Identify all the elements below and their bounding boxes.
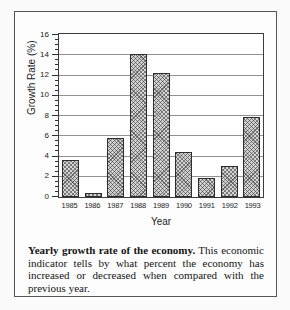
bar-slot-1992 xyxy=(218,34,241,197)
y-minor-tick xyxy=(55,125,58,126)
y-tick-label-16: 16 xyxy=(15,30,49,39)
x-tick-label-1988: 1988 xyxy=(127,201,150,211)
bar-1986 xyxy=(85,193,102,197)
y-minor-tick xyxy=(55,80,58,81)
y-major-tick-14 xyxy=(52,54,58,55)
bar-1987 xyxy=(107,138,124,197)
y-minor-tick xyxy=(55,166,58,167)
bar-slot-1991 xyxy=(195,34,218,197)
y-minor-tick xyxy=(55,39,58,40)
y-minor-tick xyxy=(55,44,58,45)
y-minor-tick xyxy=(55,110,58,111)
y-minor-tick xyxy=(55,140,58,141)
bar-1991 xyxy=(198,178,215,197)
y-minor-tick xyxy=(55,100,58,101)
y-major-tick-6 xyxy=(52,135,58,136)
y-minor-tick xyxy=(55,191,58,192)
y-minor-tick xyxy=(55,59,58,60)
y-major-tick-0 xyxy=(52,196,58,197)
y-minor-tick xyxy=(55,181,58,182)
x-tick-label-1989: 1989 xyxy=(150,201,173,211)
y-minor-tick xyxy=(55,120,58,121)
bar-slot-1985 xyxy=(59,34,82,197)
y-tick-label-6: 6 xyxy=(15,131,49,140)
y-minor-tick xyxy=(55,90,58,91)
plot-area xyxy=(58,33,264,198)
x-tick-label-1986: 1986 xyxy=(81,201,104,211)
y-major-tick-16 xyxy=(52,34,58,35)
caption-lead: Yearly growth rate of the economy. xyxy=(28,244,195,256)
bar-slot-1990 xyxy=(172,34,195,197)
y-minor-tick xyxy=(55,150,58,151)
y-tick-label-8: 8 xyxy=(15,111,49,120)
bar-1985 xyxy=(62,160,79,197)
x-tick-label-1985: 1985 xyxy=(58,201,81,211)
y-tick-label-14: 14 xyxy=(15,50,49,59)
bar-1990 xyxy=(175,152,192,197)
x-tick-label-1993: 1993 xyxy=(241,201,264,211)
y-major-tick-10 xyxy=(52,95,58,96)
y-tick-label-4: 4 xyxy=(15,151,49,160)
y-minor-tick xyxy=(55,64,58,65)
page: { "chart_data": { "type": "bar", "catego… xyxy=(0,0,290,310)
bar-slot-1988 xyxy=(127,34,150,197)
bar-slot-1987 xyxy=(104,34,127,197)
y-major-tick-2 xyxy=(52,176,58,177)
x-axis-title: Year xyxy=(58,216,264,227)
y-minor-tick xyxy=(55,85,58,86)
y-tick-label-10: 10 xyxy=(15,90,49,99)
bar-chart: Growth Rate (%) 0246810121416 1985198619… xyxy=(15,12,276,232)
y-minor-tick xyxy=(55,69,58,70)
x-tick-label-1991: 1991 xyxy=(195,201,218,211)
figure-caption: Yearly growth rate of the economy. This … xyxy=(28,244,264,294)
y-tick-label-2: 2 xyxy=(15,171,49,180)
y-minor-tick xyxy=(55,49,58,50)
y-minor-tick xyxy=(55,161,58,162)
y-major-tick-4 xyxy=(52,156,58,157)
y-tick-label-0: 0 xyxy=(15,192,49,201)
x-tick-label-1992: 1992 xyxy=(218,201,241,211)
x-tick-label-1987: 1987 xyxy=(104,201,127,211)
y-minor-tick xyxy=(55,145,58,146)
x-tick-label-1990: 1990 xyxy=(172,201,195,211)
bar-1993 xyxy=(243,117,260,197)
bar-slot-1989 xyxy=(150,34,173,197)
y-major-tick-8 xyxy=(52,115,58,116)
y-major-tick-12 xyxy=(52,75,58,76)
bar-1989 xyxy=(153,73,170,197)
y-tick-label-12: 12 xyxy=(15,70,49,79)
bar-1988 xyxy=(130,54,147,197)
bar-slot-1993 xyxy=(240,34,263,197)
y-minor-tick xyxy=(55,105,58,106)
y-minor-tick xyxy=(55,171,58,172)
bars xyxy=(59,34,263,197)
y-minor-tick xyxy=(55,186,58,187)
figure-frame: Growth Rate (%) 0246810121416 1985198619… xyxy=(14,11,277,297)
y-minor-tick xyxy=(55,130,58,131)
bar-1992 xyxy=(221,166,238,197)
x-axis-labels: 198519861987198819891990199119921993 xyxy=(58,201,264,211)
bar-slot-1986 xyxy=(82,34,105,197)
